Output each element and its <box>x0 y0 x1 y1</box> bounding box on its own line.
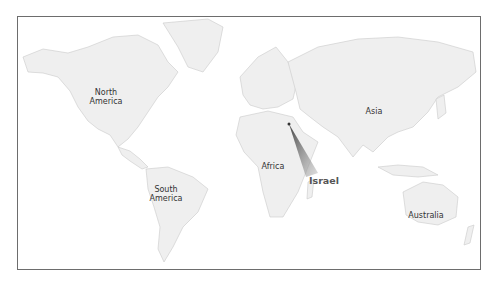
israel-marker <box>288 123 291 126</box>
map-frame: North America South America Africa Asia … <box>17 16 481 270</box>
label-australia: Australia <box>401 211 451 220</box>
label-south-america: South America <box>146 185 186 203</box>
world-map <box>18 17 480 269</box>
label-north-america: North America <box>86 88 126 106</box>
label-asia: Asia <box>359 107 389 116</box>
asia-landmass <box>288 37 476 157</box>
label-africa: Africa <box>255 162 291 171</box>
israel-callout-label: Israel <box>309 175 339 186</box>
europe-landmass <box>240 47 298 109</box>
south-america-landmass <box>146 167 208 262</box>
greenland-landmass <box>163 19 223 72</box>
